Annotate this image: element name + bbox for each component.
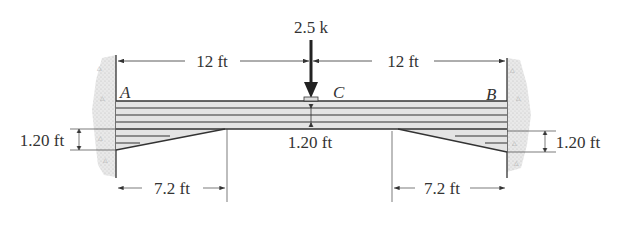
point-b-label: B <box>486 85 497 104</box>
svg-text:△: △ <box>100 95 105 101</box>
svg-text:△: △ <box>98 135 103 141</box>
point-a-label: A <box>119 83 131 102</box>
right-fixed-support: △ △ △ △ <box>507 58 531 178</box>
svg-text:△: △ <box>97 65 102 71</box>
haunch-right-length-label: 7.2 ft <box>424 179 460 198</box>
span-right-label: 12 ft <box>387 52 419 71</box>
svg-text:△: △ <box>514 160 519 166</box>
svg-text:△: △ <box>103 157 108 163</box>
svg-text:△: △ <box>516 95 521 101</box>
beam-diagram: △ △ △ △ △ △ △ △ 2.5 k A C B <box>0 0 624 241</box>
svg-text:△: △ <box>512 140 517 146</box>
haunch-left-depth-label: 1.20 ft <box>20 131 65 150</box>
haunch-left-length-label: 7.2 ft <box>154 179 190 198</box>
load-label: 2.5 k <box>294 18 329 37</box>
point-load: 2.5 k <box>294 18 329 101</box>
mid-depth-label: 1.20 ft <box>288 133 333 152</box>
point-c-label: C <box>333 83 345 102</box>
left-fixed-support: △ △ △ △ <box>92 55 116 178</box>
svg-text:△: △ <box>510 67 515 73</box>
span-left-label: 12 ft <box>196 52 228 71</box>
haunch-right-depth-label: 1.20 ft <box>556 133 601 152</box>
